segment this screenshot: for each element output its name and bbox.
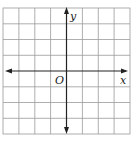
origin-label: O: [55, 74, 64, 87]
y-axis-down-arrow-icon: [64, 127, 69, 134]
y-axis-label: y: [69, 10, 77, 23]
x-axis-right-arrow-icon: [121, 69, 128, 74]
x-axis-label: x: [120, 74, 127, 87]
x-axis-left-arrow-icon: [5, 69, 12, 74]
coordinate-plane: y x O: [0, 0, 135, 151]
